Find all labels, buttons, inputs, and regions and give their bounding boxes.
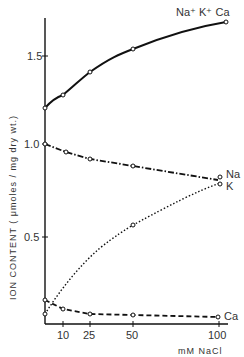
y-tick-0.5: 0.5 (24, 231, 39, 243)
label-total: Na⁺ K⁺ Ca (176, 6, 230, 18)
y-tick-1.0: 1.0 (24, 138, 39, 150)
series-total-line (45, 22, 226, 108)
y-tick-1.5: 1.5 (27, 50, 42, 62)
series-k-line (45, 183, 220, 314)
y-axis-label: ION CONTENT ( μmoles / mg dry wt.) (8, 115, 18, 300)
label-na: Na (226, 168, 241, 180)
x-tick-50: 50 (126, 329, 138, 341)
x-tick-100: 100 (208, 329, 226, 341)
chart: 1.5 1.0 0.5 10 25 50 100 mM NaCl ION CON… (0, 0, 244, 357)
label-ca: Ca (224, 310, 239, 322)
x-axis-label: mM NaCl (178, 346, 223, 356)
x-tick-10: 10 (57, 329, 69, 341)
label-k: K (226, 180, 234, 192)
x-tick-25: 25 (83, 329, 95, 341)
series-na-line (45, 144, 218, 180)
